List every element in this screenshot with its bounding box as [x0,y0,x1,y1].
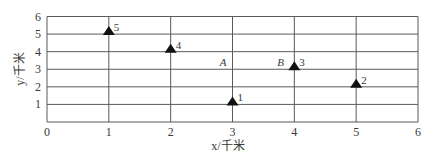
point-label: 3 [299,56,305,68]
x-tick-label: 2 [168,125,174,139]
point-label: 5 [114,21,120,33]
annotation-label: B [277,56,284,68]
y-axis-title: y/千米 [13,52,27,85]
y-tick-label: 2 [35,80,41,94]
y-tick-label: 3 [35,62,41,76]
x-tick-label: 5 [353,125,359,139]
y-tick-label: 1 [35,97,41,111]
y-tick-label: 5 [35,27,41,41]
data-point: 4 [165,39,182,53]
y-tick-label: 4 [35,45,41,59]
x-tick-label: 0 [44,125,50,139]
y-tick-label: 6 [35,10,41,24]
chart-container: 12345 0123456123456 AB x/千米 y/千米 [0,0,437,161]
x-axis-title: x/千米 [211,139,244,153]
data-point: 2 [350,74,367,88]
point-label: 4 [176,39,182,51]
annotations: AB [219,56,285,68]
annotation-label: A [219,56,227,68]
x-tick-label: 3 [230,125,236,139]
grid-lines [47,17,418,123]
point-label: 2 [361,74,367,86]
x-tick-label: 6 [415,125,421,139]
data-point: 1 [227,91,244,105]
point-label: 1 [238,91,244,103]
data-point: 5 [103,21,120,35]
x-tick-label: 1 [106,125,112,139]
x-tick-label: 4 [291,125,297,139]
data-point: 3 [288,56,305,70]
